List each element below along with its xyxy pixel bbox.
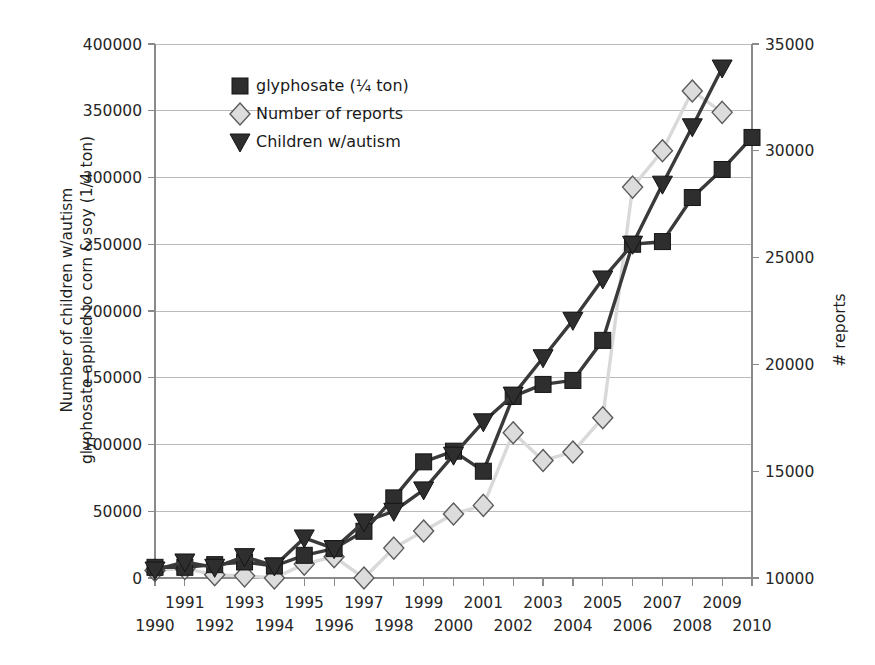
y-left-tick-label-0: 0 (132, 570, 142, 588)
x-tick-label-2000: 2000 (434, 617, 473, 635)
legend-item-children-w-autism[interactable]: Children w/autism (230, 132, 401, 152)
x-tick-label-2006: 2006 (613, 617, 652, 635)
x-axis-tick-labels: 1990199119921993199419951996199719981999… (135, 594, 771, 635)
data-point-diamond (682, 80, 702, 102)
data-point-triangle-down (712, 60, 732, 78)
x-tick-label-2007: 2007 (643, 594, 682, 612)
line-chart: 0500001000001500002000002500003000003500… (0, 0, 875, 665)
y-right-tick-label-15000: 15000 (765, 463, 814, 481)
data-point-triangle-down (414, 482, 434, 500)
legend-label: glyphosate (¼ ton) (256, 76, 409, 95)
x-tick-label-2001: 2001 (464, 594, 503, 612)
x-tick-label-2005: 2005 (583, 594, 622, 612)
data-point-diamond (712, 101, 732, 123)
x-tick-label-2003: 2003 (523, 594, 562, 612)
x-tick-label-1994: 1994 (255, 617, 294, 635)
y-right-tick-label-10000: 10000 (765, 570, 814, 588)
y-right-tick-label-30000: 30000 (765, 142, 814, 160)
legend-marker-triangle-down (230, 134, 250, 152)
legend-marker-square (232, 78, 248, 94)
y-right-tick-label-35000: 35000 (765, 36, 814, 54)
y-left-tick-label-400000: 400000 (83, 36, 142, 54)
data-point-diamond (444, 503, 464, 525)
data-point-square (744, 129, 760, 145)
x-tick-label-1998: 1998 (374, 617, 413, 635)
gridlines-group (155, 44, 752, 578)
chart-legend: glyphosate (¼ ton)Number of reportsChild… (230, 76, 409, 152)
axis-titles-group: Number of children w/autism glyphosate a… (58, 136, 849, 464)
y-axis-left-title-line1: Number of children w/autism (58, 188, 76, 413)
data-point-square (714, 161, 730, 177)
x-tick-label-1993: 1993 (225, 594, 264, 612)
legend-marker-diamond (230, 103, 250, 125)
data-point-triangle-down (652, 176, 672, 194)
y-left-tick-label-350000: 350000 (83, 102, 142, 120)
data-point-square (654, 234, 670, 250)
data-point-square (416, 454, 432, 470)
legend-item-number-of-reports[interactable]: Number of reports (230, 103, 403, 125)
legend-label: Children w/autism (256, 132, 401, 151)
data-point-square (595, 332, 611, 348)
y-right-tick-label-20000: 20000 (765, 356, 814, 374)
x-tick-label-2002: 2002 (493, 617, 532, 635)
x-tick-label-1997: 1997 (344, 594, 383, 612)
x-tick-label-2009: 2009 (702, 594, 741, 612)
y-left-tick-label-50000: 50000 (93, 503, 142, 521)
x-tick-label-2008: 2008 (673, 617, 712, 635)
data-point-square (684, 190, 700, 206)
x-tick-label-1995: 1995 (285, 594, 324, 612)
data-point-square (565, 372, 581, 388)
x-tick-label-1992: 1992 (195, 617, 234, 635)
y-axis-right-title: # reports (831, 293, 849, 366)
data-point-diamond (473, 494, 493, 516)
x-tick-label-1999: 1999 (404, 594, 443, 612)
x-tick-label-1990: 1990 (135, 617, 174, 635)
chart-container: 0500001000001500002000002500003000003500… (0, 0, 875, 665)
x-tick-label-1991: 1991 (165, 594, 204, 612)
series-line (155, 91, 722, 578)
x-tick-label-1996: 1996 (314, 617, 353, 635)
data-point-square (535, 376, 551, 392)
data-point-square (475, 463, 491, 479)
data-point-square (296, 547, 312, 563)
y-axis-left-title-line2: glyphosate applied to corn & soy (1/4 to… (78, 136, 96, 464)
legend-label: Number of reports (256, 104, 403, 123)
data-point-triangle-down (682, 119, 702, 137)
data-point-diamond (414, 520, 434, 542)
x-tick-label-2004: 2004 (553, 617, 592, 635)
series-reports (145, 80, 732, 589)
legend-item-glyphosate-ton[interactable]: glyphosate (¼ ton) (232, 76, 409, 95)
x-tick-label-2010: 2010 (732, 617, 771, 635)
series-number-of-reports (145, 80, 732, 589)
y-axis-right-tick-labels: 100001500020000250003000035000 (765, 36, 814, 588)
y-right-tick-label-25000: 25000 (765, 249, 814, 267)
